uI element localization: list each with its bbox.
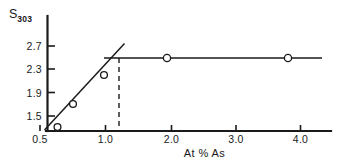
data-point-marker [70,101,77,108]
x-axis-label-wrap: At % As [0,148,345,159]
y-tick-label-2.3: 2.3 [6,64,42,75]
x-tick-label-2.0: 2.0 [152,134,192,145]
y-tick-label-1.5: 1.5 [6,111,42,122]
x-tick-label-4.0: 4.0 [281,134,321,145]
data-point-marker [54,124,61,131]
y-tick-label-1.9: 1.9 [6,88,42,99]
data-point-marker [163,54,170,61]
x-axis-label: At % As [184,147,225,159]
x-tick-label-3.0: 3.0 [216,134,256,145]
x-tick-label-1.0: 1.0 [86,134,126,145]
y-tick-label-2.7: 2.7 [6,41,42,52]
data-point-marker [284,54,291,61]
data-point-marker [101,72,108,79]
x-tick-label-0.5: 0.5 [20,134,60,145]
chart-figure: S303 2.7 2.3 1.9 1.5 0.5 1.0 2.0 [0,0,345,167]
rising-branch-line [45,44,125,131]
